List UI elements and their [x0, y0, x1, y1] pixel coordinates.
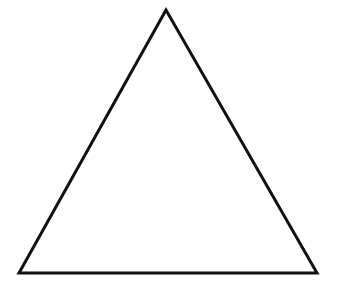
diagram-canvas: [0, 0, 341, 294]
triangle-shape: [19, 10, 317, 273]
